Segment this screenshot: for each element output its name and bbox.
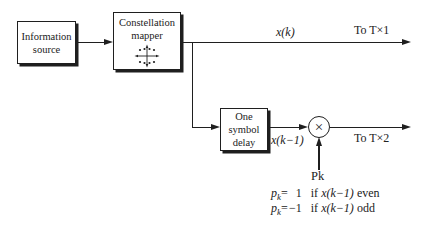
multiplier-node: ×	[308, 116, 330, 138]
branch-to-delay-line	[192, 127, 212, 128]
eq1-parity: even	[357, 186, 380, 200]
arrowhead-into-mapper	[104, 39, 113, 45]
label-x-k: x(k)	[276, 25, 295, 40]
information-source-label-line1: Information	[21, 30, 71, 43]
one-symbol-delay-block: One symbol delay	[220, 108, 268, 151]
constellation-mapper-label-line2: mapper	[131, 29, 163, 42]
label-x-k-minus-1: x(k−1)	[271, 133, 304, 148]
connector-source-to-mapper	[76, 42, 105, 43]
one-symbol-delay-label-line1: One	[235, 110, 253, 123]
equation-line-1: pk=1if x(k−1) even	[271, 186, 380, 201]
branch-vertical-line	[192, 42, 193, 128]
constellation-mapper-label-line1: Constellation	[119, 16, 175, 29]
label-to-tx1: To T×1	[354, 23, 389, 38]
one-symbol-delay-label-line3: delay	[233, 136, 256, 149]
top-rail-line	[181, 42, 403, 43]
equations-block: pk=1if x(k−1) even pk=−1if x(k−1) odd	[271, 186, 380, 215]
delay-to-multiplier-line	[268, 127, 300, 128]
constellation-mapper-block: Constellation mapper	[113, 12, 181, 70]
eq1-value: 1	[288, 186, 302, 201]
multiply-icon: ×	[315, 120, 323, 135]
eq1-if: if	[311, 186, 318, 200]
eq2-value: −1	[288, 201, 302, 216]
pk-input-line	[318, 144, 319, 170]
arrowhead-into-delay	[211, 124, 220, 130]
constellation-icon	[134, 44, 160, 71]
arrowhead-into-multiplier-bottom	[316, 137, 322, 146]
information-source-label-line2: source	[33, 43, 60, 56]
arrowhead-into-multiplier	[299, 124, 308, 130]
eq1-equals: =	[281, 186, 288, 200]
diagram-canvas: Information source Constellation mapper	[0, 0, 423, 228]
eq1-expr: x(k−1)	[321, 186, 354, 200]
eq2-expr: x(k−1)	[321, 201, 354, 215]
one-symbol-delay-label-line2: symbol	[229, 123, 260, 136]
label-pk: Pk	[311, 169, 324, 184]
eq2-parity: odd	[357, 201, 375, 215]
information-source-block: Information source	[17, 21, 76, 64]
equation-line-2: pk=−1if x(k−1) odd	[271, 201, 380, 216]
multiplier-output-line	[330, 127, 403, 128]
label-to-tx2: To T×2	[354, 131, 389, 146]
arrowhead-to-tx2	[402, 124, 411, 130]
arrowhead-to-tx1	[402, 39, 411, 45]
eq2-equals: =	[281, 201, 288, 215]
eq2-if: if	[311, 201, 318, 215]
